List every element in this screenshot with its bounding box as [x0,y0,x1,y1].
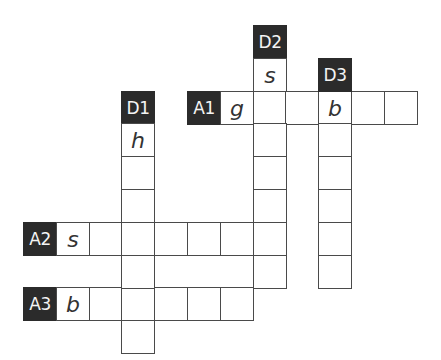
crossword-cell[interactable]: b [318,91,352,125]
crossword-cell[interactable] [121,189,155,223]
crossword-cell[interactable]: s [56,222,90,256]
crossword-cell[interactable] [253,123,287,157]
crossword-cell[interactable] [154,222,188,256]
crossword-cell[interactable] [253,222,287,256]
crossword-cell[interactable] [285,91,319,125]
crossword-cell[interactable] [253,189,287,223]
crossword-cell[interactable] [89,287,123,321]
crossword-cell[interactable] [154,287,188,321]
crossword-cell[interactable] [384,91,418,125]
clue-label-d3: D3 [318,58,352,92]
clue-label-a3: A3 [23,287,57,321]
clue-label-a1: A1 [187,91,221,125]
crossword-cell[interactable] [121,320,155,354]
crossword-cell[interactable] [253,255,287,289]
crossword-cell[interactable] [220,287,254,321]
clue-label-a2: A2 [23,222,57,256]
clue-label-d2: D2 [253,25,287,59]
crossword-cell[interactable] [318,123,352,157]
crossword-cell[interactable] [253,91,287,125]
crossword-cell[interactable] [220,222,254,256]
crossword-cell[interactable]: b [56,287,90,321]
crossword-cell[interactable] [318,156,352,190]
crossword-cell[interactable] [318,222,352,256]
crossword-cell[interactable] [121,255,155,289]
crossword-cell[interactable]: s [253,58,287,92]
crossword-cell[interactable] [253,156,287,190]
crossword-cell[interactable] [89,222,123,256]
crossword-cell[interactable]: h [121,123,155,157]
crossword-cell[interactable] [121,287,155,321]
crossword-cell[interactable] [121,222,155,256]
crossword-cell[interactable] [318,189,352,223]
crossword-cell[interactable]: g [220,91,254,125]
crossword-cell[interactable] [351,91,385,125]
crossword-cell[interactable] [187,287,221,321]
crossword-cell[interactable] [187,222,221,256]
crossword-cell[interactable] [121,156,155,190]
crossword-cell[interactable] [318,255,352,289]
clue-label-d1: D1 [121,91,155,125]
crossword-grid: A1gbA2sA3bD1hD2sD3 [0,0,441,360]
